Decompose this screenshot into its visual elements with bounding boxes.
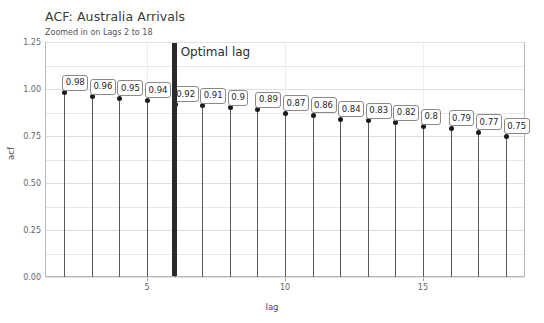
acf-stem bbox=[92, 97, 93, 277]
acf-stem bbox=[368, 121, 369, 277]
data-label: 0.84 bbox=[338, 101, 364, 117]
acf-stem bbox=[423, 127, 424, 277]
x-tick-mark bbox=[423, 278, 424, 281]
acf-stem bbox=[285, 113, 286, 277]
acf-stem bbox=[395, 123, 396, 277]
acf-stem bbox=[506, 136, 507, 277]
data-label: 0.89 bbox=[255, 92, 281, 108]
y-axis-ticks: 0.000.250.500.751.001.25 bbox=[0, 0, 41, 323]
data-label: 0.96 bbox=[90, 79, 116, 95]
x-tick-label: 5 bbox=[145, 283, 150, 292]
acf-point[interactable] bbox=[311, 113, 316, 118]
acf-point[interactable] bbox=[283, 111, 288, 116]
y-tick-label: 0.00 bbox=[23, 273, 41, 282]
chart-subtitle: Zoomed in on Lags 2 to 18 bbox=[45, 28, 152, 37]
y-tick-label: 0.50 bbox=[23, 179, 41, 188]
acf-chart: ACF: Australia Arrivals Zoomed in on Lag… bbox=[0, 0, 544, 323]
y-tick-label: 0.25 bbox=[23, 226, 41, 235]
data-label: 0.91 bbox=[200, 88, 226, 104]
acf-stem bbox=[313, 115, 314, 277]
acf-point[interactable] bbox=[338, 117, 343, 122]
optimal-lag-line bbox=[172, 43, 177, 276]
acf-stem bbox=[119, 98, 120, 277]
x-tick-label: 10 bbox=[280, 283, 290, 292]
data-label: 0.98 bbox=[62, 75, 88, 91]
data-label: 0.87 bbox=[283, 95, 309, 111]
acf-stem bbox=[340, 119, 341, 277]
acf-point[interactable] bbox=[449, 126, 454, 131]
x-tick-mark bbox=[147, 278, 148, 281]
acf-stem bbox=[257, 110, 258, 277]
acf-stem bbox=[230, 108, 231, 277]
data-label: 0.86 bbox=[311, 97, 337, 113]
acf-stem bbox=[451, 128, 452, 277]
optimal-lag-label: Optimal lag bbox=[181, 45, 251, 59]
acf-stem bbox=[478, 132, 479, 277]
data-label: 0.83 bbox=[366, 103, 392, 119]
acf-point[interactable] bbox=[145, 98, 150, 103]
y-tick-label: 1.25 bbox=[23, 38, 41, 47]
y-tick-label: 1.00 bbox=[23, 85, 41, 94]
data-label: 0.82 bbox=[393, 105, 419, 121]
chart-title: ACF: Australia Arrivals bbox=[45, 9, 185, 24]
acf-point[interactable] bbox=[90, 94, 95, 99]
data-label: 0.94 bbox=[145, 82, 171, 98]
x-axis-label: lag bbox=[0, 302, 544, 312]
data-label: 0.75 bbox=[504, 118, 530, 134]
data-label: 0.9 bbox=[228, 90, 249, 106]
x-tick-label: 15 bbox=[418, 283, 428, 292]
data-label: 0.79 bbox=[449, 110, 475, 126]
data-label: 0.95 bbox=[117, 80, 143, 96]
acf-stem bbox=[147, 100, 148, 277]
data-label: 0.77 bbox=[476, 114, 502, 130]
acf-point[interactable] bbox=[476, 130, 481, 135]
data-label: 0.8 bbox=[421, 109, 442, 125]
acf-stem bbox=[202, 106, 203, 277]
y-tick-label: 0.75 bbox=[23, 132, 41, 141]
acf-point[interactable] bbox=[421, 124, 426, 129]
x-tick-mark bbox=[285, 278, 286, 281]
acf-point[interactable] bbox=[504, 134, 509, 139]
gridline-major bbox=[46, 277, 524, 278]
acf-stem bbox=[64, 93, 65, 277]
